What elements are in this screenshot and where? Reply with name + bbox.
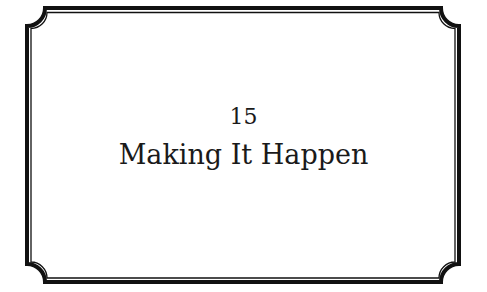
chapter-number: 15 [0,104,487,129]
chapter-title: Making It Happen [0,139,487,170]
